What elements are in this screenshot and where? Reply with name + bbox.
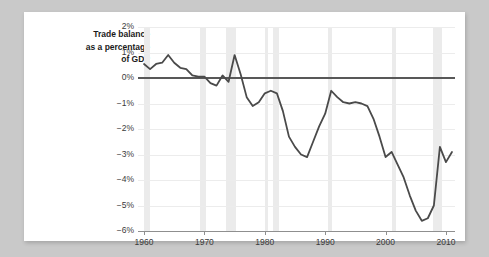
x-axis-tick-label: 2010 <box>426 237 466 247</box>
x-axis-tick-label: 1960 <box>124 237 164 247</box>
y-axis-tick-label: −4% <box>100 174 134 184</box>
x-axis-tick-label: 1970 <box>184 237 224 247</box>
x-axis-tick <box>144 231 145 235</box>
x-axis-tick <box>265 231 266 235</box>
y-axis-tick-label: −2% <box>100 123 134 133</box>
y-axis-tick-label: 0% <box>100 72 134 82</box>
x-axis-tick-label: 1980 <box>245 237 285 247</box>
x-axis-tick <box>386 231 387 235</box>
x-axis-tick-label: 1990 <box>305 237 345 247</box>
y-axis-tick-label: 1% <box>100 47 134 57</box>
chart-page: Trade balanceas a percentageof GDP 2%1%0… <box>0 0 489 257</box>
x-axis-tick <box>204 231 205 235</box>
y-axis-tick-label: −6% <box>100 225 134 235</box>
y-axis-tick-label: −5% <box>100 200 134 210</box>
x-axis-tick <box>325 231 326 235</box>
y-axis-tick-label: −1% <box>100 98 134 108</box>
y-axis-tick-label: −3% <box>100 149 134 159</box>
x-axis-line <box>138 231 455 232</box>
y-axis-labels: 2%1%0%−1%−2%−3%−4%−5%−6% <box>96 0 134 257</box>
series-path <box>144 55 452 221</box>
x-axis-tick-label: 2000 <box>366 237 406 247</box>
y-axis-tick-label: 2% <box>100 21 134 31</box>
trade-balance-line <box>138 27 455 231</box>
x-axis-tick <box>446 231 447 235</box>
